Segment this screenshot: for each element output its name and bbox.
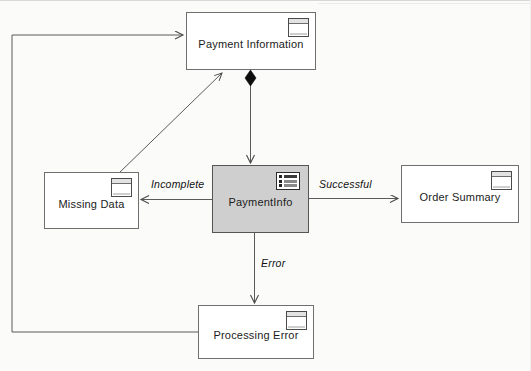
node-missing-data[interactable]: Missing Data <box>44 172 139 229</box>
node-label: Payment Information <box>198 38 303 50</box>
node-label: Order Summary <box>420 191 501 203</box>
node-order-summary[interactable]: Order Summary <box>401 165 519 223</box>
node-processing-error[interactable]: Processing Error <box>198 305 314 359</box>
edge-resubmit <box>118 73 222 174</box>
scan-artifact-line-top <box>0 0 531 1</box>
edge-label-error: Error <box>261 257 285 269</box>
window-icon <box>111 178 132 197</box>
node-label: Missing Data <box>59 198 125 210</box>
composition-diamond <box>245 70 256 86</box>
list-icon <box>276 172 300 190</box>
node-label: PaymentInfo <box>229 196 293 208</box>
window-icon <box>286 311 307 330</box>
edge-label-successful: Successful <box>319 178 372 190</box>
window-icon <box>491 171 512 190</box>
node-label: Processing Error <box>213 329 298 341</box>
edge-label-incomplete: Incomplete <box>151 178 204 190</box>
edge-composition <box>245 70 256 163</box>
diagram-canvas: Payment Information Missing Data Payment… <box>0 0 531 371</box>
window-icon <box>288 18 309 37</box>
scan-artifact-line-top-secondary <box>318 3 531 4</box>
node-payment-info[interactable]: PaymentInfo <box>212 165 309 233</box>
node-payment-information[interactable]: Payment Information <box>186 12 316 70</box>
